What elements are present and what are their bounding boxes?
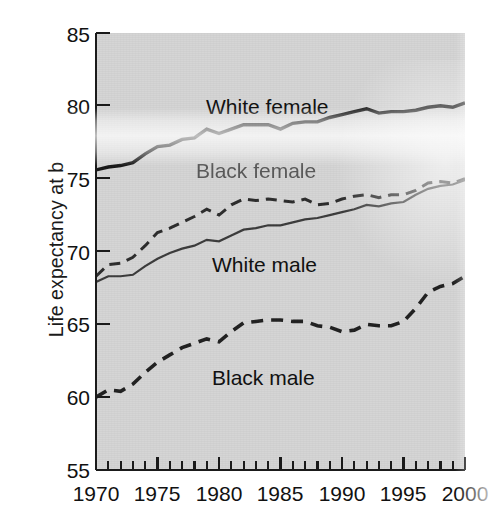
x-tick-1975: 1975 [122,483,192,504]
series-label-white-female: White female [206,95,329,119]
x-tick-1995: 1995 [368,483,438,504]
x-tick-1990: 1990 [307,483,377,504]
x-tick-1970: 1970 [61,483,131,504]
series-label-black-male: Black male [212,366,315,390]
life-expectancy-chart: Life expectancy at b 85 80 75 70 65 60 5… [0,0,495,531]
series-label-black-female: Black female [196,159,316,183]
x-tick-1985: 1985 [245,483,315,504]
x-tick-2000: 2000 [430,483,495,504]
series-label-white-male: White male [212,253,317,277]
x-tick-1980: 1980 [184,483,254,504]
